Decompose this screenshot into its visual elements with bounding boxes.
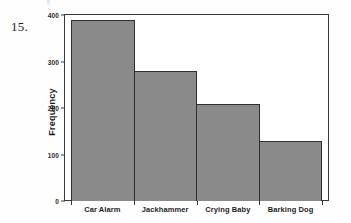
bar-barking-dog [259, 141, 323, 201]
bar-car-alarm [71, 20, 135, 201]
y-axis-tick-label: 100 [48, 151, 59, 158]
y-axis-tick-0: 0 [55, 198, 65, 205]
y-axis-tick-label: 0 [55, 198, 59, 205]
y-axis-tick-label: 400 [48, 12, 59, 19]
x-axis-labels: Car Alarm Jackhammer Crying Baby Barking… [71, 205, 322, 214]
y-axis-tick-label: 200 [48, 105, 59, 112]
x-axis-label-barking-dog: Barking Dog [259, 205, 322, 214]
y-axis-tick-mark [61, 15, 65, 16]
y-axis-tick-200: 200 [48, 105, 65, 112]
y-axis-tick-400: 400 [48, 12, 65, 19]
bar-crying-baby [196, 104, 260, 201]
y-axis-tick-mark [61, 61, 65, 62]
bar-chart-figure: Frequency 400 300 200 100 0 [0, 0, 351, 223]
page-canvas: 15. Frequency 400 300 200 100 [0, 0, 351, 223]
x-axis-label-car-alarm: Car Alarm [71, 205, 134, 214]
y-axis-title: Frequency [47, 88, 57, 135]
x-axis-label-jackhammer: Jackhammer [134, 205, 197, 214]
x-axis-tick-mark [322, 201, 323, 205]
y-axis-tick-mark [61, 154, 65, 155]
y-axis-tick-100: 100 [48, 151, 65, 158]
x-axis-label-crying-baby: Crying Baby [197, 205, 260, 214]
bar-jackhammer [134, 71, 198, 201]
y-axis-tick-label: 300 [48, 58, 59, 65]
plot-area: 400 300 200 100 0 [65, 15, 328, 201]
y-axis-tick-mark [61, 108, 65, 109]
y-axis-tick-300: 300 [48, 58, 65, 65]
bar-series [71, 15, 322, 201]
